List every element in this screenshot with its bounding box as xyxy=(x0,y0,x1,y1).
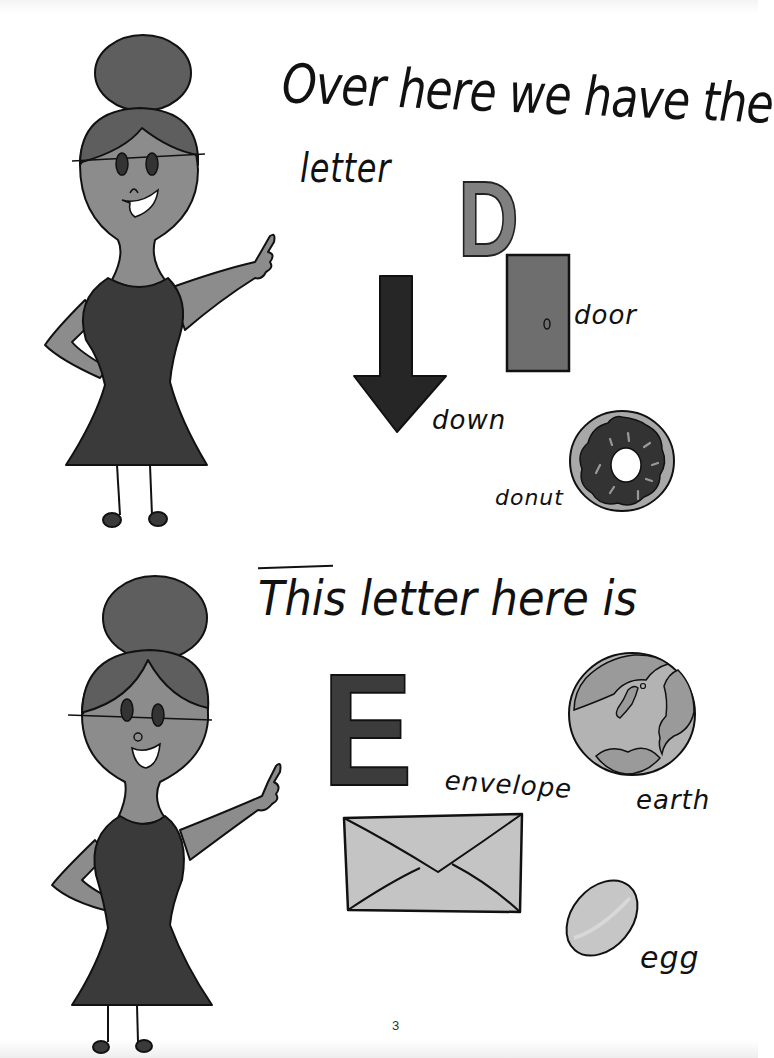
envelope-icon xyxy=(340,812,525,914)
earth-icon xyxy=(566,650,701,778)
page-number: 3 xyxy=(392,1018,399,1033)
word-donut: donut xyxy=(495,485,564,510)
panel-d-sentence: Over here we have the xyxy=(281,52,774,136)
word-egg: egg xyxy=(640,940,700,975)
teacher-illustration-bottom xyxy=(0,560,300,1058)
featured-letter-e: E xyxy=(322,650,413,810)
panel-d-sentence-continued: letter xyxy=(300,145,391,191)
word-earth: earth xyxy=(636,785,710,815)
egg-icon xyxy=(560,874,645,962)
word-down: down xyxy=(432,405,506,435)
word-door: door xyxy=(574,300,637,330)
donut-icon xyxy=(566,405,678,517)
teacher-illustration-top xyxy=(0,0,300,560)
panel-e-sentence: This letter here is xyxy=(258,570,637,626)
word-envelope: envelope xyxy=(444,765,573,804)
door-icon xyxy=(505,253,571,373)
